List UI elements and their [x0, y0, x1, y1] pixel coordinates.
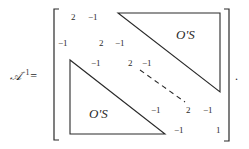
entry-rn-c1: −1 [174, 126, 184, 135]
diagonal-dashes [140, 70, 185, 102]
entry-rn-c2: 1 [216, 126, 221, 135]
equals-sign: = [30, 69, 38, 83]
lhs-exponent: −1 [21, 68, 30, 77]
entry-r3-c2: 2 [128, 59, 133, 68]
entry-r1-c2: −1 [88, 13, 98, 22]
upper-block-label: O'S [176, 27, 195, 43]
left-bracket [54, 9, 59, 140]
entry-rn1-c3: −1 [203, 106, 213, 115]
entry-r3-c3: −1 [142, 59, 152, 68]
entry-r3-c1: −1 [91, 59, 101, 68]
right-bracket [224, 9, 229, 141]
entry-r2-c2: 2 [99, 39, 104, 48]
entry-r2-c1: −1 [58, 39, 68, 48]
upper-zero-triangle [118, 13, 220, 92]
entry-r1-c1: 2 [71, 13, 76, 22]
lower-zero-triangle [70, 60, 165, 134]
matrix-lhs: 𝒜−1= [10, 68, 38, 84]
lower-block-label: O'S [89, 106, 108, 122]
lhs-symbol: 𝒜 [10, 69, 21, 83]
entry-rn1-c1: −1 [151, 106, 161, 115]
terminal-period: . [235, 72, 238, 81]
entry-r2-c3: −1 [115, 39, 125, 48]
entry-rn1-c2: 2 [186, 106, 191, 115]
